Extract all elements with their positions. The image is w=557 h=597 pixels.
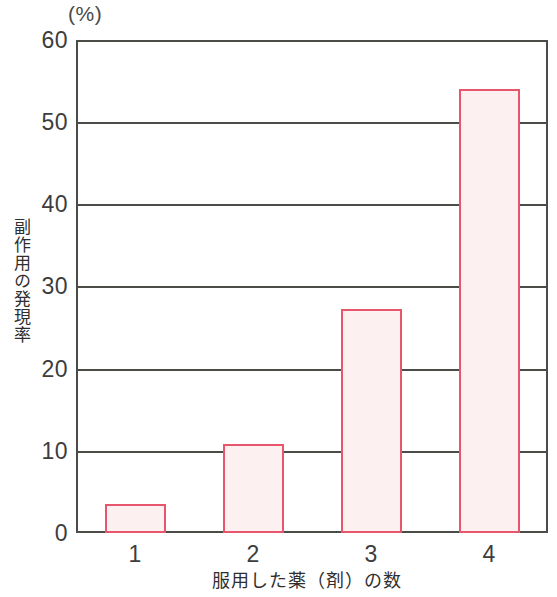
bars-layer (76, 40, 548, 533)
y-tick-label-10: 10 (8, 438, 68, 465)
bar-category-1[interactable] (105, 504, 166, 533)
bar-category-4[interactable] (459, 89, 520, 533)
bar-category-3[interactable] (341, 309, 402, 533)
y-tick-label-20: 20 (8, 356, 68, 383)
x-tick-label-3: 3 (341, 541, 401, 568)
x-axis-title: 服用した薬（剤）の数 (0, 566, 557, 592)
y-tick-label-40: 40 (8, 191, 68, 218)
bar-chart: (%) 副作用の発現率 60 50 40 30 20 10 0 1 2 3 4 … (0, 0, 557, 597)
x-tick-label-2: 2 (223, 541, 283, 568)
bar-category-2[interactable] (223, 444, 284, 533)
y-tick-label-50: 50 (8, 109, 68, 136)
y-tick-label-60: 60 (8, 27, 68, 54)
y-tick-label-0: 0 (8, 520, 68, 547)
y-tick-label-30: 30 (8, 273, 68, 300)
x-tick-label-1: 1 (105, 541, 165, 568)
x-tick-label-4: 4 (459, 541, 519, 568)
y-axis-unit-label: (%) (68, 2, 102, 26)
